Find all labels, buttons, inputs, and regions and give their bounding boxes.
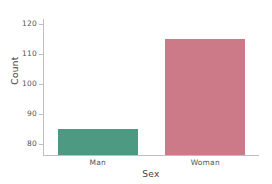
y-tick-mark bbox=[39, 84, 43, 85]
y-tick-mark bbox=[39, 54, 43, 55]
y-tick-label: 90 bbox=[0, 110, 37, 118]
x-axis-spine bbox=[43, 155, 259, 156]
y-tick-label: 120 bbox=[0, 20, 37, 28]
bar-woman[interactable] bbox=[165, 39, 245, 155]
y-axis-label: Count bbox=[11, 41, 20, 101]
y-tick-label: 80 bbox=[0, 140, 37, 148]
y-tick-mark bbox=[39, 144, 43, 145]
y-tick-label-text: 120 bbox=[1, 20, 37, 28]
x-tick-label-man: Man bbox=[58, 159, 138, 167]
y-tick-label-text: 80 bbox=[1, 140, 37, 148]
x-tick-label-woman: Woman bbox=[165, 159, 245, 167]
y-tick-label-text: 90 bbox=[1, 110, 37, 118]
bar-man[interactable] bbox=[58, 129, 138, 155]
plot-area bbox=[44, 20, 259, 155]
y-tick-mark bbox=[39, 24, 43, 25]
y-tick-mark bbox=[39, 114, 43, 115]
x-axis-label: Sex bbox=[43, 170, 259, 179]
count-plot-figure: 8090100110120 ManWoman Sex Count bbox=[0, 0, 272, 184]
